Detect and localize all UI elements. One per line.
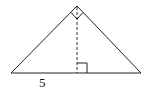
triangle-diagram (0, 0, 146, 90)
foot-right-angle-marker (77, 63, 87, 73)
left-side (11, 6, 77, 73)
base-segment-label: 5 (39, 76, 46, 89)
